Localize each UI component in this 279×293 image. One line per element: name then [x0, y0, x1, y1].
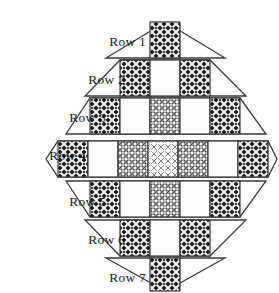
row-5-cell-3-medium-speckle[interactable] [150, 181, 180, 217]
row-label-6: Row 6 [88, 232, 125, 247]
row-4-cell-6-plain-white[interactable] [208, 141, 238, 177]
row-6-cell-3-dark-crosshatch[interactable] [180, 220, 210, 256]
row-label-4: Row 4 [49, 148, 86, 163]
row-label-5: Row 5 [69, 194, 106, 209]
row-4-cell-7-dark-crosshatch[interactable] [238, 141, 268, 177]
row-3-cell-5-dark-crosshatch[interactable] [210, 98, 240, 134]
row-4-cell-3-medium-speckle[interactable] [118, 141, 148, 177]
row-label-2: Row 2 [88, 72, 125, 87]
row-2-cell-3-dark-crosshatch[interactable] [180, 60, 210, 96]
row-1-cell-1-dark-crosshatch[interactable] [150, 22, 180, 58]
row-label-1: Row 1 [109, 34, 146, 49]
row-5-cell-2-plain-white[interactable] [120, 181, 150, 217]
row-3-cell-2-plain-white[interactable] [120, 98, 150, 134]
row-3-cell-3-medium-speckle[interactable] [150, 98, 180, 134]
row-5-cell-4-plain-white[interactable] [180, 181, 210, 217]
row-label-7: Row 7 [109, 270, 146, 285]
row-5-cell-5-dark-crosshatch[interactable] [210, 181, 240, 217]
row-4-cell-4-light-speckle[interactable] [148, 141, 178, 177]
row-6-cell-2-plain-white[interactable] [150, 220, 180, 256]
row-4-cell-2-plain-white[interactable] [88, 141, 118, 177]
quilt-diagram: Row 1Row 2Row 3Row 4Row 5Row 6Row 7 [0, 0, 279, 293]
row-7-cell-1-dark-crosshatch[interactable] [150, 258, 180, 291]
row-2-cell-2-plain-white[interactable] [150, 60, 180, 96]
row-4-cell-5-medium-speckle[interactable] [178, 141, 208, 177]
row-3-cell-4-plain-white[interactable] [180, 98, 210, 134]
row-label-3: Row 3 [69, 110, 106, 125]
